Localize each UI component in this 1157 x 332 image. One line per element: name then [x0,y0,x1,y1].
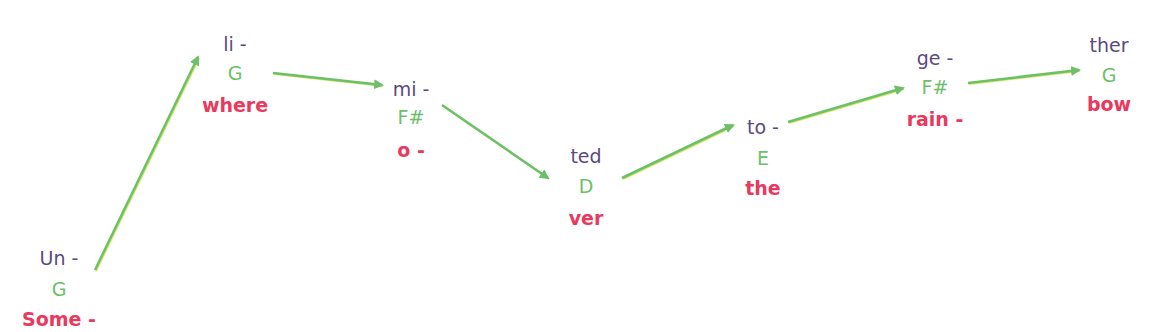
lyric-syllable: mi - [341,78,481,100]
note-name: D [516,175,656,197]
lyric-word: Some - [0,308,129,330]
lyric-syllable: ther [1039,34,1157,56]
lyric-word: ver [516,207,656,229]
lyric-word: rain - [865,108,1005,130]
note-name: E [693,147,833,169]
lyric-word: the [693,177,833,199]
arrow-shadow [96,58,199,271]
lyric-syllable: to - [693,116,833,138]
note-name: G [0,278,129,300]
lyric-syllable: ge - [865,47,1005,69]
note-name: G [1039,64,1157,86]
note-name: F# [865,76,1005,98]
note-name: F# [341,106,481,128]
lyric-word: bow [1039,93,1157,115]
lyric-syllable: ted [516,145,656,167]
arrow-1 [95,57,198,270]
lyric-syllable: li - [165,33,305,55]
lyric-word: where [165,94,305,116]
note-name: G [165,62,305,84]
lyric-syllable: Un - [0,247,129,269]
lyric-word: o - [341,139,481,161]
